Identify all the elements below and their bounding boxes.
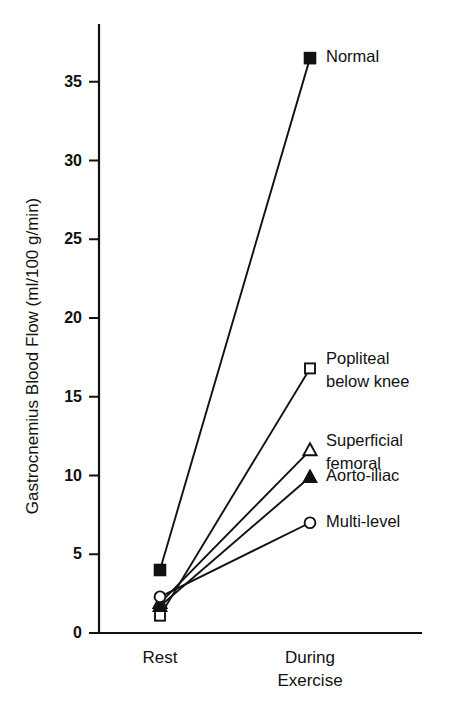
y-tick-label: 30 — [64, 152, 82, 169]
y-tick-label: 0 — [73, 624, 82, 641]
x-category-label-line2: Exercise — [277, 671, 342, 690]
y-tick-label: 5 — [73, 545, 82, 562]
data-point-marker-filled-square — [305, 53, 316, 64]
series-markers — [153, 53, 316, 621]
line-chart: Gastrocnemius Blood Flow (ml/100 g/min) … — [0, 0, 454, 718]
x-category-label: During — [285, 648, 335, 667]
chart-figure: Gastrocnemius Blood Flow (ml/100 g/min) … — [0, 0, 454, 718]
data-point-marker-open-circle — [155, 591, 166, 602]
y-tick-label: 25 — [64, 230, 82, 247]
series-label: Popliteal — [326, 349, 389, 367]
data-point-marker-open-square — [155, 611, 165, 621]
series-label-line2: below knee — [326, 372, 409, 390]
y-tick-label: 20 — [64, 309, 82, 326]
x-category-label: Rest — [143, 648, 178, 667]
series-lines — [160, 58, 310, 616]
y-axis-title-text: Gastrocnemius Blood Flow (ml/100 g/min) — [23, 198, 42, 515]
x-axis-category-labels: RestDuringExercise — [143, 648, 343, 690]
y-tick-label: 35 — [64, 73, 82, 90]
series-label: Multi-level — [326, 512, 400, 530]
series-label: Normal — [326, 47, 379, 65]
data-point-marker-open-circle — [305, 517, 316, 528]
y-axis-title: Gastrocnemius Blood Flow (ml/100 g/min) — [23, 198, 42, 515]
y-tick-label: 10 — [64, 467, 82, 484]
y-tick-label: 15 — [64, 388, 82, 405]
y-axis-ticks: 05101520253035 — [64, 73, 99, 641]
data-point-marker-filled-triangle — [303, 470, 316, 482]
data-point-marker-filled-square — [155, 565, 166, 576]
data-point-marker-open-square — [305, 363, 315, 373]
series-labels: NormalPoplitealbelow kneeSuperficialfemo… — [326, 47, 409, 530]
series-label: Aorto-iliac — [326, 466, 399, 484]
data-point-marker-open-triangle — [303, 443, 316, 455]
series-label: Superficial — [326, 431, 403, 449]
series-line — [160, 450, 310, 603]
axes — [99, 25, 421, 633]
series-line — [160, 523, 310, 597]
